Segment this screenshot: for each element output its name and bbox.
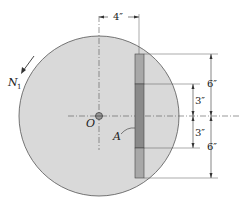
dim-4-label: 4″ <box>113 11 123 22</box>
slot-bar-upper <box>135 54 144 84</box>
slot-bar-lower <box>135 148 144 178</box>
center-label: O <box>86 117 95 130</box>
slot-bar-middle <box>135 84 144 148</box>
dim-upper-inner-label: 3″ <box>195 95 205 106</box>
dim-lower-inner-label: 3″ <box>195 127 205 138</box>
rotation-subscript: 1 <box>17 83 21 91</box>
point-a-label: A <box>112 130 121 143</box>
dim-upper-outer-label: 6″ <box>207 78 217 89</box>
diagram-canvas: 4″ 3″ 3″ 6″ 6″ N 1 O A <box>0 0 247 208</box>
disk-diagram: 4″ 3″ 3″ 6″ 6″ N 1 O A <box>0 0 247 208</box>
dim-lower-outer-label: 6″ <box>207 141 217 152</box>
rotation-arrow-icon <box>23 56 34 71</box>
